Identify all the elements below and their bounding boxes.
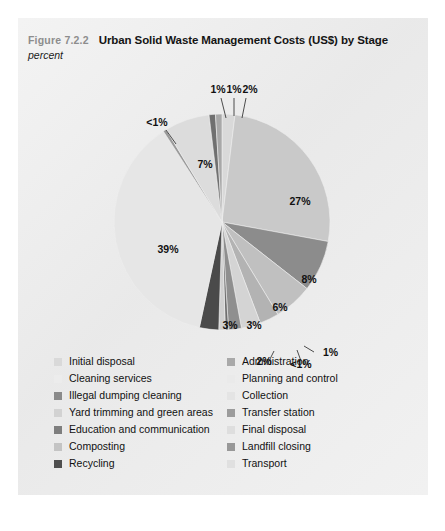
legend-item-label: Composting	[69, 441, 125, 452]
legend-item[interactable]: Illegal dumping cleaning	[54, 387, 223, 404]
legend-item[interactable]: Composting	[54, 438, 223, 455]
slice-leader-line	[304, 346, 314, 352]
legend-item-label: Planning and control	[242, 373, 338, 384]
legend-item[interactable]: Initial disposal	[54, 353, 223, 370]
slice-value-label: 8%	[301, 273, 317, 285]
legend-item[interactable]: Transfer station	[227, 404, 428, 421]
legend-item-label: Landfill closing	[242, 441, 311, 452]
slice-value-label: 7%	[197, 158, 213, 170]
legend-swatch	[227, 443, 235, 451]
legend-item[interactable]: Final disposal	[227, 421, 428, 438]
legend-item-label: Final disposal	[242, 424, 306, 435]
legend-item-label: Illegal dumping cleaning	[69, 390, 182, 401]
legend-item[interactable]: Planning and control	[227, 370, 428, 387]
legend-item[interactable]: Landfill closing	[227, 438, 428, 455]
legend-item-label: Education and communication	[69, 424, 210, 435]
legend-swatch	[54, 375, 62, 383]
legend-swatch	[227, 426, 235, 434]
legend-column-right: AdministrationPlanning and controlCollec…	[223, 353, 428, 472]
slice-value-label: 1%	[210, 83, 226, 95]
chart-area: 2%27%8%6%3%3%2%<1%1%39%<1%7%1%1% Initial…	[18, 18, 428, 495]
legend-item[interactable]: Collection	[227, 387, 428, 404]
legend-item-label: Yard trimming and green areas	[69, 407, 213, 418]
legend-swatch	[54, 460, 62, 468]
slice-value-label: <1%	[146, 116, 168, 128]
legend-item-label: Transport	[242, 458, 287, 469]
legend-item-label: Initial disposal	[69, 356, 135, 367]
legend-swatch	[54, 426, 62, 434]
slice-leader-line	[242, 98, 246, 118]
legend-item-label: Transfer station	[242, 407, 315, 418]
legend-item[interactable]: Cleaning services	[54, 370, 223, 387]
legend-item-label: Administration	[242, 356, 309, 367]
slice-value-label: 3%	[246, 319, 262, 331]
slice-value-label: 39%	[157, 243, 179, 255]
legend-swatch	[54, 409, 62, 417]
slice-value-label: 1%	[226, 83, 242, 95]
slice-value-label: 6%	[272, 301, 288, 313]
legend-swatch	[54, 443, 62, 451]
legend-item[interactable]: Recycling	[54, 455, 223, 472]
legend-item[interactable]: Administration	[227, 353, 428, 370]
figure-page: Figure 7.2.2Urban Solid Waste Management…	[0, 0, 445, 531]
legend-swatch	[227, 392, 235, 400]
legend-swatch	[54, 358, 62, 366]
chart-legend: Initial disposalCleaning servicesIllegal…	[18, 353, 428, 472]
legend-item[interactable]: Yard trimming and green areas	[54, 404, 223, 421]
legend-column-left: Initial disposalCleaning servicesIllegal…	[18, 353, 223, 472]
slice-value-label: 2%	[242, 83, 258, 95]
legend-item[interactable]: Transport	[227, 455, 428, 472]
legend-swatch	[227, 358, 235, 366]
legend-item-label: Cleaning services	[69, 373, 152, 384]
legend-swatch	[227, 460, 235, 468]
pie-slice	[222, 115, 330, 242]
legend-swatch	[227, 409, 235, 417]
slice-value-label: 27%	[289, 195, 311, 207]
legend-item[interactable]: Education and communication	[54, 421, 223, 438]
legend-item-label: Collection	[242, 390, 288, 401]
slice-value-label: 3%	[222, 319, 238, 331]
pie-slice-group	[114, 114, 330, 330]
legend-swatch	[227, 375, 235, 383]
legend-item-label: Recycling	[69, 458, 115, 469]
legend-swatch	[54, 392, 62, 400]
